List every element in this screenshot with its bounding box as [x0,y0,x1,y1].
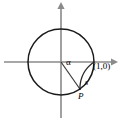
arc-length-s-label: s [85,79,88,87]
y-axis-arrow-icon [57,2,64,9]
unit-circle-figure: α (1,0) s P [0,0,121,124]
point-p-marker [79,88,81,90]
point-p-label: P [78,92,84,101]
angle-alpha-label: α [66,58,71,67]
y-axis [57,2,64,118]
point-one-zero-label: (1,0) [93,62,110,71]
x-axis-arrow-icon [111,58,118,65]
